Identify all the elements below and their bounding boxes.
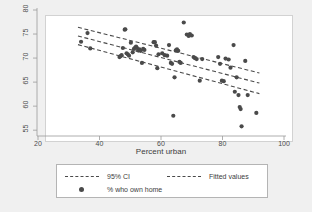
legend-label-ci: 95% CI bbox=[107, 173, 130, 180]
legend-item-ci: 95% CI bbox=[65, 170, 130, 182]
chart-legend: 95% CI Fitted values % who own home bbox=[56, 164, 268, 198]
dashed-line-icon bbox=[65, 176, 99, 177]
scatter-plot-figure: 556065707580 20406080100 Percent urban 9… bbox=[0, 0, 312, 212]
y-tick-label: 80 bbox=[22, 1, 29, 17]
data-points-group bbox=[79, 20, 258, 128]
x-axis-title: Percent urban bbox=[37, 147, 285, 156]
legend-item-points: % who own home bbox=[65, 183, 162, 195]
y-tick-label: 60 bbox=[22, 97, 29, 113]
dashed-line-icon bbox=[167, 176, 201, 177]
filled-circle-icon bbox=[79, 187, 84, 192]
legend-label-fitted: Fitted values bbox=[209, 173, 249, 180]
y-tick-label: 55 bbox=[22, 121, 29, 137]
trend-lines-group bbox=[78, 27, 259, 93]
x-tick-label: 60 bbox=[151, 140, 171, 147]
y-tick-label: 75 bbox=[22, 25, 29, 41]
y-tick-label: 70 bbox=[22, 49, 29, 65]
legend-label-points: % who own home bbox=[107, 186, 162, 193]
x-tick-label: 40 bbox=[90, 140, 110, 147]
legend-item-fitted: Fitted values bbox=[167, 170, 249, 182]
x-tick-label: 100 bbox=[274, 140, 294, 147]
y-tick-label: 65 bbox=[22, 73, 29, 89]
x-tick-label: 20 bbox=[28, 140, 48, 147]
x-tick-label: 80 bbox=[213, 140, 233, 147]
axes-group bbox=[33, 8, 286, 140]
